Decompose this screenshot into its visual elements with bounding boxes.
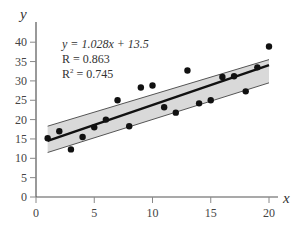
x-tick-label: 10 <box>147 206 159 220</box>
r-squared-value: R2 = 0.745 <box>62 67 113 81</box>
data-point <box>44 135 50 141</box>
data-point <box>219 74 225 80</box>
data-point <box>266 43 272 49</box>
x-axis-title: x <box>282 190 290 206</box>
r2-prefix: R <box>62 67 70 81</box>
r2-value: = 0.745 <box>74 67 114 81</box>
data-point <box>254 64 260 70</box>
data-point <box>103 116 109 122</box>
data-point <box>68 146 74 152</box>
data-point <box>173 109 179 115</box>
data-point <box>149 82 155 88</box>
scatter-chart: 051015202530354005101520 y x y = 1.028x … <box>0 0 302 230</box>
y-tick-label: 10 <box>15 151 27 165</box>
data-point <box>91 124 97 130</box>
data-point <box>243 88 249 94</box>
y-tick-label: 20 <box>15 113 27 127</box>
x-tick-label: 5 <box>91 206 97 220</box>
data-point <box>79 134 85 140</box>
y-tick-label: 25 <box>15 93 27 107</box>
y-tick-label: 40 <box>15 35 27 49</box>
x-tick-label: 20 <box>263 206 275 220</box>
data-point <box>114 97 120 103</box>
data-point <box>231 73 237 79</box>
r-value: R = 0.863 <box>62 52 110 66</box>
regression-equation: y = 1.028x + 13.5 <box>61 37 149 51</box>
x-tick-label: 0 <box>33 206 39 220</box>
y-tick-label: 5 <box>21 171 27 185</box>
data-point <box>126 123 132 129</box>
y-tick-label: 30 <box>15 74 27 88</box>
data-point <box>56 128 62 134</box>
data-point <box>196 100 202 106</box>
y-tick-label: 15 <box>15 132 27 146</box>
y-tick-label: 0 <box>21 190 27 204</box>
x-tick-label: 15 <box>205 206 217 220</box>
data-point <box>208 97 214 103</box>
y-tick-label: 35 <box>15 55 27 69</box>
data-point <box>138 84 144 90</box>
data-point <box>161 104 167 110</box>
y-axis-title: y <box>18 6 27 22</box>
data-point <box>184 67 190 73</box>
